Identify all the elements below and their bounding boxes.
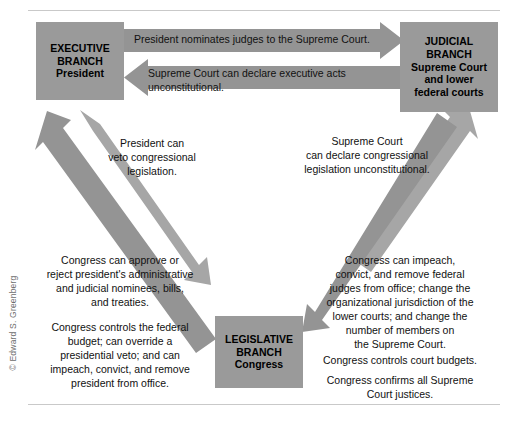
- note-congress-federal-budget: Congress controls the federal budget; ca…: [22, 320, 218, 390]
- figure-credit: © Edward S. Greenberg: [8, 263, 18, 383]
- judicial-line-3: Supreme Court: [411, 61, 487, 74]
- note-congress-confirms-justices: Congress confirms all Supreme Court just…: [300, 373, 500, 401]
- legislative-branch-box: LEGISLATIVE BRANCH Congress: [215, 316, 303, 388]
- executive-line-2: BRANCH: [57, 55, 103, 68]
- executive-branch-box: EXECUTIVE BRANCH President: [36, 22, 124, 100]
- judicial-line-5: federal courts: [414, 86, 483, 99]
- note-declare-congressional-legislation: Supreme Court can declare congressional …: [282, 134, 452, 176]
- note-congress-court-budgets: Congress controls court budgets.: [300, 353, 500, 367]
- note-congress-approve-nominees: Congress can approve or reject president…: [22, 253, 218, 309]
- legislative-line-1: LEGISLATIVE: [225, 333, 293, 346]
- executive-line-3: President: [56, 67, 104, 80]
- note-president-veto: President can veto congressional legisla…: [84, 136, 220, 178]
- label-president-nominates: President nominates judges to the Suprem…: [134, 33, 404, 47]
- judicial-line-4: and lower: [424, 73, 473, 86]
- label-declare-executive-acts: Supreme Court can declare executive acts…: [148, 67, 398, 94]
- legislative-line-2: BRANCH: [236, 346, 282, 359]
- executive-line-1: EXECUTIVE: [50, 42, 110, 55]
- judicial-line-1: JUDICIAL: [425, 35, 473, 48]
- judicial-line-2: BRANCH: [426, 48, 472, 61]
- judicial-branch-box: JUDICIAL BRANCH Supreme Court and lower …: [400, 22, 498, 112]
- note-congress-impeach-judges: Congress can impeach, convict, and remov…: [300, 253, 500, 351]
- checks-and-balances-diagram: EXECUTIVE BRANCH President JUDICIAL BRAN…: [0, 0, 517, 422]
- legislative-line-3: Congress: [235, 358, 283, 371]
